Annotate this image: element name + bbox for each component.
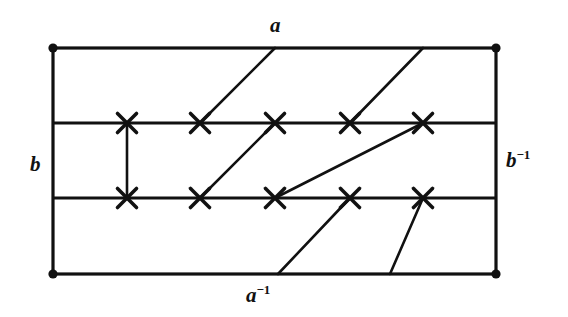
edge-label-b-inverse-sup: −1 [517,147,530,162]
bottom-band-diagonal-1 [278,198,350,274]
edge-label-b-inverse: b−1 [506,148,530,171]
top-band-diagonal-2 [350,48,423,123]
figure-canvas: a a−1 b b−1 [0,0,568,317]
edge-label-b-base: b [30,152,41,176]
middle-band-diagonal-steep [200,123,275,198]
edge-label-a-base: a [270,13,281,37]
top-band-diagonal-1 [200,48,275,123]
bottom-band-diagonal-2 [390,198,423,274]
corner-vertex-dot-3 [48,269,57,278]
corner-vertex-dot-4 [491,269,500,278]
edge-label-b-inverse-base: b [506,148,517,172]
edge-label-a-inverse-base: a [246,283,257,307]
edge-label-a-inverse-sup: −1 [257,282,270,297]
polygon-diagram-svg [0,0,568,317]
corner-vertex-dot-1 [48,43,57,52]
diagram-geometry [48,43,500,278]
edge-label-b: b [30,152,41,175]
outer-rectangle [53,48,496,274]
edge-label-a-inverse: a−1 [246,283,270,306]
corner-vertex-dot-2 [491,43,500,52]
middle-band-diagonal-shallow [275,123,423,198]
edge-label-a: a [270,13,281,36]
